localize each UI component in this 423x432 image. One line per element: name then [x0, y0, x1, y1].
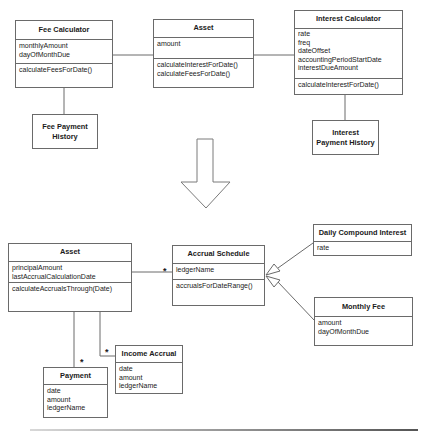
attribute: amount — [318, 319, 409, 328]
class-name-line: Payment History — [316, 138, 374, 148]
class-attributes: amount — [154, 38, 253, 59]
class-name: Daily Compound Interest — [314, 225, 411, 242]
class-fee-payment-history: Fee Payment History — [32, 114, 98, 149]
multiplicity-asset-income-accrual: * — [105, 348, 109, 357]
transformation-arrow-icon — [181, 139, 230, 208]
operation: calculateFeesForDate() — [157, 70, 250, 79]
generalization-arrowhead-monthly — [266, 276, 280, 287]
multiplicity-asset-payment: * — [80, 358, 84, 367]
class-attributes: date amount ledgerName — [116, 363, 182, 393]
class-attributes: date amount ledgerName — [44, 385, 107, 415]
class-name: Interest Calculator — [295, 11, 402, 29]
class-name: Accrual Schedule — [173, 246, 264, 264]
generalization-arrowhead-daily — [266, 264, 280, 275]
attribute: ledgerName — [119, 382, 179, 391]
attribute: dateOffset — [298, 47, 399, 56]
attribute: accountingPeriodStartDate — [298, 56, 399, 65]
class-asset-top: Asset amount calculateInterestForDate() … — [153, 19, 254, 88]
attribute: monthlyAmount — [19, 42, 109, 51]
class-interest-payment-history: Interest Payment History — [312, 120, 379, 155]
attribute: dayOfMonthDue — [318, 328, 409, 337]
class-interest-calculator: Interest Calculator rate freq dateOffset… — [294, 10, 403, 95]
bottom-divider — [30, 429, 418, 431]
attribute: rate — [317, 244, 408, 253]
class-accrual-schedule: Accrual Schedule ledgerName accrualsForD… — [172, 245, 265, 306]
operation: calculateFeesForDate() — [19, 66, 109, 75]
class-attributes: ledgerName — [173, 264, 264, 280]
multiplicity-asset-schedule: * — [163, 267, 167, 276]
class-operations: calculateAccrualsThrough(Date) — [9, 283, 131, 296]
class-operations: calculateInterestForDate() — [295, 79, 402, 92]
attribute: ledgerName — [47, 404, 104, 413]
class-asset-bottom: Asset principalAmount lastAccrualCalcula… — [8, 243, 132, 312]
class-fee-calculator: Fee Calculator monthlyAmount dayOfMonthD… — [15, 20, 113, 88]
class-attributes: rate freq dateOffset accountingPeriodSta… — [295, 29, 402, 79]
attribute: amount — [157, 40, 250, 49]
class-daily-compound-interest: Daily Compound Interest rate — [313, 224, 412, 256]
operation: calculateAccrualsThrough(Date) — [12, 285, 128, 294]
class-attributes: monthlyAmount dayOfMonthDue — [16, 40, 112, 64]
attribute: date — [119, 365, 179, 374]
attribute: lastAccrualCalculationDate — [12, 273, 128, 282]
attribute: rate — [298, 30, 399, 39]
class-name: Monthly Fee — [315, 298, 412, 317]
class-name-line: Interest — [316, 128, 374, 138]
class-attributes: rate — [314, 242, 411, 255]
attribute: ledgerName — [176, 266, 261, 275]
class-name: Payment — [44, 368, 107, 385]
class-name-line: Fee Payment — [42, 122, 88, 132]
operation: accrualsForDateRange() — [176, 282, 261, 291]
class-name: Asset — [9, 244, 131, 262]
operation: calculateInterestForDate() — [157, 61, 250, 70]
class-name: Fee Calculator — [16, 21, 112, 40]
attribute: dayOfMonthDue — [19, 51, 109, 60]
attribute: amount — [119, 374, 179, 383]
attribute: interestDueAmount — [298, 64, 399, 73]
class-operations: calculateInterestForDate() calculateFees… — [154, 59, 253, 80]
class-operations: calculateFeesForDate() — [16, 64, 112, 77]
class-payment: Payment date amount ledgerName — [43, 367, 108, 418]
attribute: freq — [298, 39, 399, 48]
class-operations: accrualsForDateRange() — [173, 280, 264, 293]
class-attributes: amount dayOfMonthDue — [315, 317, 412, 338]
attribute: principalAmount — [12, 264, 128, 273]
attribute: date — [47, 387, 104, 396]
class-income-accrual: Income Accrual date amount ledgerName — [115, 345, 183, 394]
operation: calculateInterestForDate() — [298, 81, 399, 90]
class-name: Income Accrual — [116, 346, 182, 363]
class-attributes: principalAmount lastAccrualCalculationDa… — [9, 262, 131, 283]
class-name-line: History — [42, 132, 88, 142]
class-monthly-fee: Monthly Fee amount dayOfMonthDue — [314, 297, 413, 346]
class-name: Asset — [154, 20, 253, 38]
attribute: amount — [47, 396, 104, 405]
